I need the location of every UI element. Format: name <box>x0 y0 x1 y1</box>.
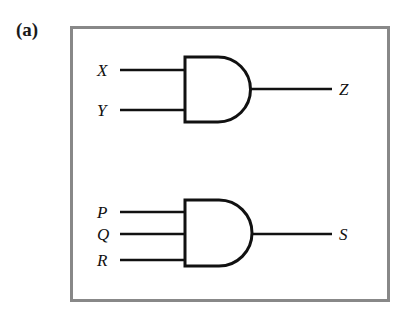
signal-label-q: Q <box>97 226 109 243</box>
signal-label-x: X <box>97 62 107 79</box>
signal-label-z: Z <box>339 81 348 98</box>
and-gate-1-body <box>185 57 251 122</box>
signal-label-y: Y <box>97 102 106 119</box>
signal-label-r: R <box>97 252 107 269</box>
and-gate-2 <box>120 200 332 266</box>
and-gate-2-body <box>185 200 252 266</box>
signal-label-s: S <box>339 226 348 243</box>
figure-canvas: (a) X Y Z P Q R S <box>0 0 415 319</box>
signal-label-p: P <box>97 204 107 221</box>
and-gate-1 <box>120 57 332 122</box>
part-label: (a) <box>16 19 38 41</box>
logic-circuit-schematic <box>70 26 390 302</box>
